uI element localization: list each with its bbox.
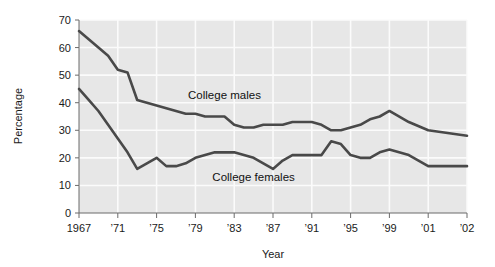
series-annotation-label: College females <box>212 171 295 183</box>
series-annotation-label: College males <box>188 89 261 101</box>
x-tick-label: ’83 <box>227 222 242 234</box>
chart-container: 010203040506070 1967’71’75’79’83’87’91’9… <box>0 0 495 267</box>
y-tick-label: 0 <box>65 207 71 219</box>
y-tick-label: 60 <box>59 42 71 54</box>
x-tick-label: ’79 <box>188 222 203 234</box>
y-tick-label: 20 <box>59 152 71 164</box>
line-chart: 010203040506070 1967’71’75’79’83’87’91’9… <box>0 0 495 267</box>
x-tick-label: ’99 <box>382 222 397 234</box>
x-tick-label: ’01 <box>421 222 436 234</box>
x-tick-label: ’71 <box>110 222 125 234</box>
y-tick-label: 40 <box>59 97 71 109</box>
x-tick-label: ’75 <box>149 222 164 234</box>
y-tick-label: 50 <box>59 69 71 81</box>
x-axis-title: Year <box>262 248 285 260</box>
y-tick-label: 10 <box>59 179 71 191</box>
y-axis-title: Percentage <box>12 88 24 144</box>
x-tick-label: ’02 <box>460 222 475 234</box>
y-tick-label: 30 <box>59 124 71 136</box>
y-tick-label: 70 <box>59 14 71 26</box>
x-tick-label: ’87 <box>266 222 281 234</box>
x-tick-label: 1967 <box>67 222 91 234</box>
x-tick-label: ’91 <box>304 222 319 234</box>
x-tick-label: ’95 <box>343 222 358 234</box>
